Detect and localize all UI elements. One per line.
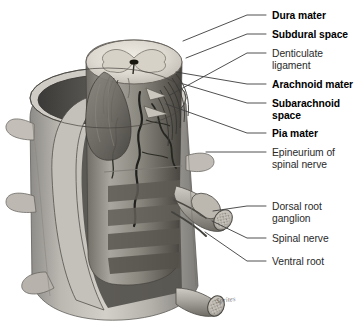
label-ventral-root-text: Ventral root bbox=[272, 256, 324, 267]
label-dura-mater-text: Dura mater bbox=[272, 10, 326, 21]
label-epineurium-line1: Epineurium of bbox=[272, 147, 335, 158]
label-spinal-nerve: Spinal nerve bbox=[272, 233, 329, 245]
label-denticulate-ligament-line1: Denticulate bbox=[272, 48, 323, 59]
label-subarachnoid-space-line2: space bbox=[272, 110, 301, 121]
label-dorsal-root-ganglion-line2: ganglion bbox=[272, 213, 311, 224]
label-subdural-space-text: Subdural space bbox=[272, 29, 348, 40]
label-subarachnoid-space-line1: Subarachnoid bbox=[272, 98, 340, 109]
label-dura-mater: Dura mater bbox=[272, 10, 326, 22]
label-ventral-root: Ventral root bbox=[272, 256, 324, 268]
label-epineurium-of-spinal-nerve: Epineurium ofspinal nerve bbox=[272, 147, 335, 171]
label-subarachnoid-space: Subarachnoidspace bbox=[272, 98, 340, 122]
label-spinal-nerve-text: Spinal nerve bbox=[272, 233, 329, 244]
label-dorsal-root-ganglion: Dorsal rootganglion bbox=[272, 201, 322, 225]
label-epineurium-line2: spinal nerve bbox=[272, 159, 327, 170]
label-pia-mater: Pia mater bbox=[272, 128, 318, 140]
label-pia-mater-text: Pia mater bbox=[272, 128, 318, 139]
label-arachnoid-mater-text: Arachnoid mater bbox=[272, 79, 353, 90]
label-arachnoid-mater: Arachnoid mater bbox=[272, 79, 353, 91]
label-denticulate-ligament: Denticulateligament bbox=[272, 48, 323, 72]
label-dorsal-root-ganglion-line1: Dorsal root bbox=[272, 201, 322, 212]
label-denticulate-ligament-line2: ligament bbox=[272, 60, 311, 71]
anatomy-figure: Dura mater Subdural space Denticulatelig… bbox=[0, 0, 364, 334]
label-subdural-space: Subdural space bbox=[272, 29, 348, 41]
